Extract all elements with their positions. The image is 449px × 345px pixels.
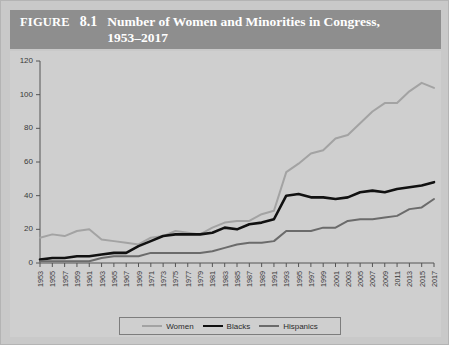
legend-label: Hispanics (283, 322, 318, 331)
x-axis-tick-label: 2015 (418, 271, 427, 287)
x-axis-tick-label: 1985 (233, 271, 242, 287)
x-axis-tick-label: 2009 (381, 271, 390, 287)
x-axis-tick-label: 1969 (135, 271, 144, 287)
x-axis-tick-label: 2003 (344, 271, 353, 287)
x-axis-tick-label: 1955 (48, 271, 57, 287)
legend-label: Women (166, 322, 193, 331)
x-axis-tick-label: 1957 (61, 271, 70, 287)
y-axis-tick-label: 60 (24, 157, 33, 166)
x-axis-tick-label: 2017 (430, 271, 439, 287)
x-axis-tick-label: 2013 (405, 271, 414, 287)
x-axis-tick-label: 1991 (270, 271, 279, 287)
page-title: Number of Women and Minorities in Congre… (107, 14, 407, 46)
x-axis-tick-label: 1965 (110, 271, 119, 287)
x-axis-tick-label: 2007 (368, 271, 377, 287)
x-axis-tick-label: 1981 (208, 271, 217, 287)
y-axis-tick-label: 20 (24, 224, 33, 233)
x-axis-tick-label: 1953 (36, 271, 45, 287)
chart-legend: WomenBlacksHispanics (119, 317, 341, 335)
figure-label: FIGURE (20, 14, 70, 30)
figure-container: FIGURE 8.1 Number of Women and Minoritie… (0, 0, 449, 345)
x-axis-tick-label: 1995 (295, 271, 304, 287)
legend-item[interactable]: Women (142, 322, 193, 331)
x-axis-tick-label: 2011 (393, 271, 402, 286)
x-axis-tick-label: 2001 (332, 271, 341, 287)
x-axis-tick-label: 1979 (196, 271, 205, 287)
x-axis-tick-label: 1977 (184, 271, 193, 287)
x-axis-tick-label: 1971 (147, 271, 156, 287)
line-chart-svg: 0204060801001201953195519571959196119631… (10, 51, 441, 337)
figure-title-inner: FIGURE 8.1 Number of Women and Minoritie… (20, 14, 407, 46)
legend-item[interactable]: Blacks (203, 322, 251, 331)
y-axis-tick-label: 120 (20, 56, 34, 65)
x-axis-tick-label: 1961 (85, 271, 94, 287)
x-axis-tick-label: 1987 (245, 271, 254, 287)
x-axis-tick-label: 1975 (171, 271, 180, 287)
x-axis-tick-label: 1967 (122, 271, 131, 287)
x-axis-tick-label: 1983 (221, 271, 230, 287)
x-axis-tick-label: 1993 (282, 271, 291, 287)
x-axis-tick-label: 1997 (307, 271, 316, 287)
x-axis-tick-label: 1999 (319, 271, 328, 287)
figure-number: 8.1 (80, 14, 98, 30)
legend-swatch-blacks (203, 325, 223, 327)
x-axis-tick-label: 1973 (159, 271, 168, 287)
y-axis-tick-label: 40 (24, 191, 33, 200)
y-axis-tick-label: 80 (24, 123, 33, 132)
y-axis-tick-label: 100 (20, 90, 34, 99)
x-axis-tick-label: 1963 (98, 271, 107, 287)
x-axis-tick-label: 2005 (356, 271, 365, 287)
x-axis-tick-label: 1959 (73, 271, 82, 287)
x-axis-tick-label: 1989 (258, 271, 267, 287)
chart-axes (40, 61, 434, 263)
legend-label: Blacks (227, 322, 251, 331)
legend-swatch-women (142, 325, 162, 327)
figure-title-banner: FIGURE 8.1 Number of Women and Minoritie… (10, 10, 441, 49)
legend-swatch-hispanics (259, 325, 279, 327)
y-axis-tick-label: 0 (29, 258, 34, 267)
legend-item[interactable]: Hispanics (259, 322, 318, 331)
chart-plot-area: 0204060801001201953195519571959196119631… (10, 51, 441, 337)
series-line-women (40, 83, 434, 245)
